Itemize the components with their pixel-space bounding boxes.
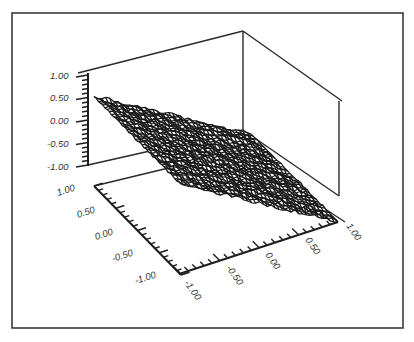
z-axis-labels: 1.00 0.50 0.00 -0.50 -1.00	[47, 70, 69, 172]
z-minor-tick	[82, 116, 88, 117]
y-major-tick	[116, 205, 125, 208]
z-major-tick	[76, 165, 88, 167]
z-minor-tick	[82, 102, 88, 103]
y-label: -0.50	[110, 247, 135, 264]
x-minor-tick	[184, 267, 188, 271]
z-major-tick	[76, 143, 88, 145]
y-major-tick	[159, 250, 168, 253]
y-minor-tick	[168, 260, 173, 262]
z-minor-tick	[82, 89, 88, 90]
z-major-tick	[76, 75, 88, 77]
z-minor-tick	[82, 107, 88, 108]
y-minor-tick	[133, 225, 138, 227]
x-major-tick	[213, 254, 219, 260]
x-label: 0.50	[303, 235, 323, 257]
y-minor-tick	[103, 193, 108, 195]
y-minor-tick	[107, 198, 112, 200]
z-minor-tick	[82, 147, 88, 148]
z-label: 0.00	[50, 115, 69, 126]
y-label: -1.00	[133, 269, 158, 286]
z-axis	[76, 73, 88, 167]
z-major-tick	[76, 120, 88, 122]
x-minor-tick	[287, 234, 291, 238]
x-minor-tick	[271, 239, 275, 243]
y-axis-labels: 1.00 0.50 0.00 -0.50 -1.00	[55, 182, 158, 286]
y-minor-tick	[142, 233, 147, 235]
x-minor-tick	[327, 221, 331, 225]
x-minor-tick	[263, 241, 267, 245]
y-minor-tick	[172, 265, 177, 267]
z-minor-tick	[82, 134, 88, 135]
y-major-tick	[138, 228, 147, 231]
y-minor-tick	[151, 242, 156, 244]
x-label: 0.00	[263, 250, 283, 272]
y-minor-tick	[120, 211, 125, 213]
x-minor-tick	[200, 262, 204, 266]
z-minor-tick	[82, 138, 88, 139]
x-major-tick	[292, 228, 298, 234]
y-minor-tick	[111, 202, 116, 204]
y-minor-tick	[155, 247, 160, 249]
y-minor-tick	[146, 238, 151, 240]
x-minor-tick	[240, 249, 244, 253]
y-label: 0.00	[93, 226, 115, 242]
x-label: 1.00	[344, 221, 364, 243]
x-label: -1.00	[182, 278, 204, 303]
z-label: -0.50	[47, 138, 69, 149]
z-minor-tick	[82, 156, 88, 157]
z-minor-tick	[82, 161, 88, 162]
y-minor-tick	[129, 220, 134, 222]
z-label: 0.50	[50, 92, 69, 103]
y-minor-tick	[124, 216, 129, 218]
x-minor-tick	[232, 252, 236, 256]
z-minor-tick	[82, 152, 88, 153]
y-label: 1.00	[55, 182, 77, 198]
y-label: 0.50	[75, 204, 97, 220]
z-label: -1.00	[47, 161, 69, 172]
z-label: 1.00	[50, 70, 69, 81]
surface-plot: 1.00 0.50 0.00 -0.50 -1.00 1.00 0.50 0.0…	[0, 0, 414, 342]
y-minor-tick	[164, 256, 169, 258]
x-minor-tick	[303, 229, 307, 233]
back-left-wall-top-edge	[78, 31, 243, 73]
back-right-wall-top-edge	[243, 31, 342, 101]
z-major-tick	[76, 98, 88, 100]
y-minor-tick	[98, 189, 103, 191]
x-minor-tick	[279, 236, 283, 240]
x-minor-tick	[319, 224, 323, 228]
z-minor-tick	[82, 111, 88, 112]
z-minor-tick	[82, 129, 88, 130]
wireframe-surface	[94, 97, 338, 223]
x-minor-tick	[248, 247, 252, 251]
x-minor-tick	[192, 264, 196, 268]
x-minor-tick	[224, 254, 228, 258]
z-minor-tick	[82, 93, 88, 94]
z-minor-tick	[82, 125, 88, 126]
x-major-tick	[253, 241, 259, 247]
z-minor-tick	[82, 84, 88, 85]
z-minor-tick	[82, 80, 88, 81]
x-minor-tick	[311, 226, 315, 230]
x-minor-tick	[208, 259, 212, 263]
x-label: -0.50	[224, 263, 246, 288]
